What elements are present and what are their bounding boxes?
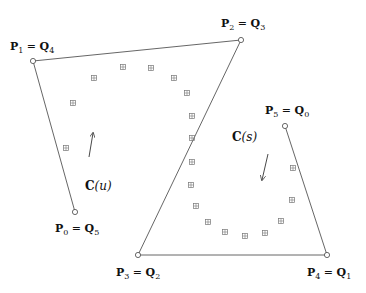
curve-sample-marker [149,66,154,71]
curve-markers [64,65,296,239]
curve-sample-marker [243,234,248,239]
label-p1: P1 = Q4 [10,40,54,55]
diagram-canvas: P0 = Q5P1 = Q4P2 = Q3P3 = Q2P4 = Q1P5 = … [0,0,366,293]
curve-sample-marker [190,160,195,165]
curve-sample-marker [190,136,195,141]
direction-u-arrow-icon [89,133,93,157]
control-point-p1 [30,58,35,63]
control-point-p3 [135,252,140,257]
polygon-edge [33,61,75,212]
curve-sample-marker [189,183,194,188]
polygon-edge [33,40,241,61]
control-point-p0 [72,209,77,214]
control-point-p5 [282,123,287,128]
label-p4: P4 = Q1 [307,266,351,281]
label-p5: P5 = Q0 [265,104,309,119]
curve-sample-marker [279,219,284,224]
polygon-edge [138,40,241,255]
label-p0: P0 = Q5 [55,222,99,237]
curve-sample-marker [263,231,268,236]
polygon-edge [285,126,327,255]
point-labels: P0 = Q5P1 = Q4P2 = Q3P3 = Q2P4 = Q1P5 = … [10,17,351,281]
direction-s-arrow-icon [262,154,268,180]
curve-sample-marker [172,76,177,81]
curve-sample-marker [206,220,211,225]
label-p2: P2 = Q3 [221,17,265,32]
curve-sample-marker [290,198,295,203]
curve-sample-marker [121,65,126,70]
label-p3: P3 = Q2 [116,266,160,281]
curve-sample-marker [190,114,195,119]
curve-label-cs: C(s) [232,130,257,144]
curve-labels: C(u)C(s) [85,130,257,193]
control-point-p2 [238,37,243,42]
curve-label-cu: C(u) [85,179,112,193]
curve-sample-marker [71,101,76,106]
control-point-p4 [324,252,329,257]
curve-sample-marker [291,166,296,171]
curve-sample-marker [223,230,228,235]
curve-sample-marker [185,91,190,96]
curve-sample-marker [64,146,69,151]
curve-sample-marker [194,204,199,209]
curve-sample-marker [92,76,97,81]
